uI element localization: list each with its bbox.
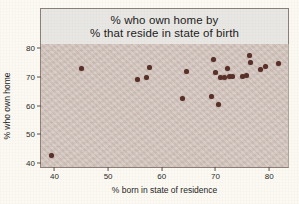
x-axis-tick: 50	[104, 167, 113, 181]
data-point	[147, 65, 152, 70]
data-point	[211, 57, 216, 62]
chart-title-line-1: % who own home by	[111, 14, 219, 26]
y-axis-tick: 80	[26, 44, 41, 53]
x-axis-tick: 70	[211, 167, 220, 181]
y-axis-tick: 50	[26, 130, 41, 139]
y-axis-tick: 60	[26, 101, 41, 110]
data-point	[248, 60, 253, 65]
data-point	[244, 73, 249, 78]
data-point	[135, 77, 140, 82]
x-tick-mark	[215, 167, 216, 171]
x-tick-mark	[161, 167, 162, 171]
y-tick-mark	[37, 48, 41, 49]
data-point	[184, 69, 189, 74]
chart-title-line-2: % that reside in state of birth	[90, 27, 239, 39]
scatter-plot-figure: % who own home by % that reside in state…	[0, 0, 299, 204]
data-point	[230, 74, 235, 79]
x-axis-tick: 60	[157, 167, 166, 181]
chart-title-box: % who own home by % that reside in state…	[40, 8, 289, 45]
data-point	[263, 64, 268, 69]
y-tick-mark	[37, 134, 41, 135]
y-tick-mark	[37, 105, 41, 106]
data-point	[276, 61, 281, 66]
y-axis-tick: 40	[26, 158, 41, 167]
x-tick-label: 70	[211, 172, 220, 181]
x-axis-tick: 80	[265, 167, 274, 181]
x-axis-title: % born in state of residence	[40, 185, 289, 195]
data-point	[216, 102, 221, 107]
y-tick-label: 60	[26, 101, 35, 110]
data-point	[209, 94, 214, 99]
data-point	[180, 96, 185, 101]
x-tick-mark	[108, 167, 109, 171]
data-point	[213, 70, 218, 75]
x-tick-label: 80	[265, 172, 274, 181]
x-tick-label: 60	[157, 172, 166, 181]
y-tick-label: 70	[26, 72, 35, 81]
y-tick-label: 80	[26, 44, 35, 53]
y-tick-mark	[37, 162, 41, 163]
x-tick-label: 50	[104, 172, 113, 181]
data-point	[258, 67, 263, 72]
x-tick-mark	[269, 167, 270, 171]
data-point	[79, 66, 84, 71]
x-tick-label: 40	[50, 172, 59, 181]
y-tick-label: 40	[26, 158, 35, 167]
x-tick-mark	[54, 167, 55, 171]
y-tick-mark	[37, 76, 41, 77]
plot-area: 40506070804050607080	[40, 44, 289, 168]
data-point	[49, 153, 54, 158]
y-tick-label: 50	[26, 130, 35, 139]
x-axis-tick: 40	[50, 167, 59, 181]
data-point	[144, 75, 149, 80]
data-point	[225, 66, 230, 71]
y-axis-title: % who own home	[2, 72, 12, 139]
y-axis-tick: 70	[26, 72, 41, 81]
data-point	[247, 53, 252, 58]
